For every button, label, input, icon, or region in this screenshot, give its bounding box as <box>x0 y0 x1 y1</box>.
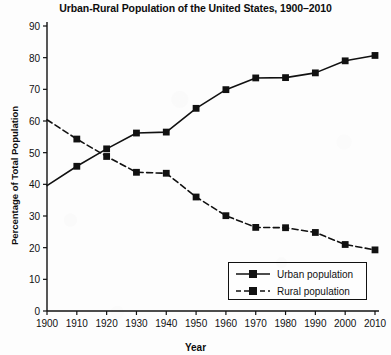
chart-legend: Urban population Rural population <box>228 262 367 300</box>
plot-area <box>0 0 391 355</box>
legend-swatch-rural <box>235 285 271 297</box>
legend-item-rural: Rural population <box>235 283 350 299</box>
legend-swatch-urban <box>235 268 271 280</box>
chart-figure: Urban-Rural Population of the United Sta… <box>0 0 391 355</box>
legend-label-rural: Rural population <box>277 286 350 297</box>
data-series <box>47 52 378 253</box>
legend-label-urban: Urban population <box>277 269 353 280</box>
legend-item-urban: Urban population <box>235 266 353 282</box>
